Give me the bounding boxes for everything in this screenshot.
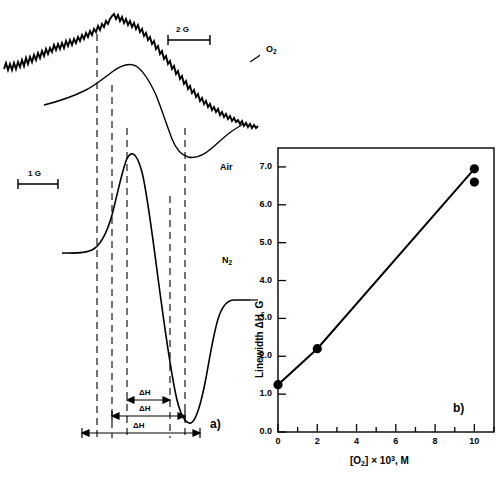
y-axis-ticks — [278, 167, 286, 432]
data-point — [273, 380, 282, 389]
trace-label-o2: O2 — [266, 45, 277, 55]
delta-h-marker-1 — [127, 397, 170, 403]
panel-label-b: b) — [453, 402, 464, 414]
leader-o2 — [250, 54, 260, 62]
trace-air — [44, 64, 232, 157]
y-tick-label: 0.0 — [242, 427, 272, 436]
data-point — [470, 177, 479, 186]
figure-container: O2 Air N2 2 G 1 G ΔH ΔH ΔH a) 0.01.02.03… — [0, 0, 498, 477]
y-axis-title: Linewidth ΔH, G — [254, 301, 265, 378]
y-tick-label: 6.0 — [242, 200, 272, 209]
scale-bar-2g — [168, 35, 210, 45]
delta-h-label-2: ΔH — [139, 405, 151, 413]
y-tick-label: 1.0 — [242, 389, 272, 398]
delta-h-label-1: ΔH — [139, 389, 151, 397]
x-tick-label: 2 — [303, 437, 331, 446]
scale-bar-label-1g: 1 G — [28, 170, 41, 178]
y-tick-label: 4.0 — [242, 276, 272, 285]
delta-h-label-3: ΔH — [133, 422, 145, 430]
trace-n2 — [62, 154, 250, 423]
trace-label-n2: N2 — [222, 256, 232, 266]
trace-o2 — [4, 14, 258, 128]
data-series-line — [278, 169, 474, 385]
plot-frame — [278, 148, 494, 432]
x-tick-label: 10 — [460, 437, 488, 446]
chart-frame — [278, 148, 494, 432]
panel-label-a: a) — [210, 418, 221, 430]
scale-bar-1g — [18, 179, 58, 189]
esr-spectra-plot — [0, 0, 260, 460]
y-tick-label: 5.0 — [242, 238, 272, 247]
x-axis-title: [O2] × 103, M — [350, 455, 409, 467]
x-tick-label: 6 — [382, 437, 410, 446]
data-point — [470, 164, 479, 173]
x-tick-label: 8 — [421, 437, 449, 446]
chart-canvas — [240, 130, 498, 477]
data-point — [313, 344, 322, 353]
scale-bar-label-2g: 2 G — [176, 26, 189, 34]
x-axis-ticks — [278, 424, 494, 432]
x-tick-label: 0 — [264, 437, 292, 446]
linewidth-vs-o2-chart: 0.01.02.03.04.05.06.07.0 0246810 Linewid… — [240, 130, 498, 477]
trace-label-air: Air — [220, 163, 233, 172]
x-tick-label: 4 — [343, 437, 371, 446]
y-tick-label: 7.0 — [242, 162, 272, 171]
